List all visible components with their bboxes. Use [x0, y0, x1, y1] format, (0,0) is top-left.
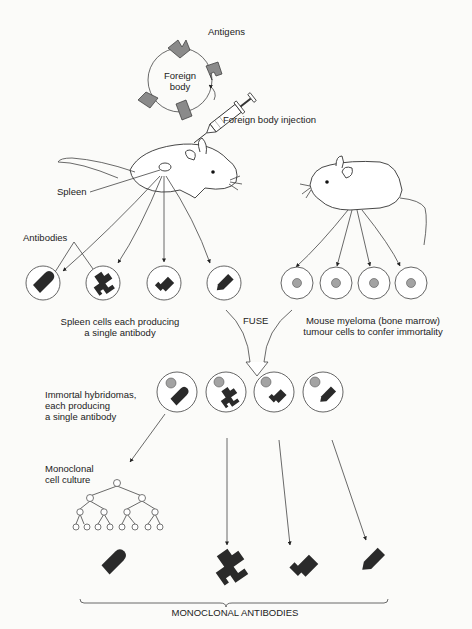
label-spleen-cells-line1: Spleen cells each producing [40, 316, 200, 327]
label-myeloma: Mouse myeloma (bone marrow) tumour cells… [283, 315, 463, 337]
hybridoma-cell [157, 372, 197, 412]
antigen-icon [176, 100, 192, 120]
spleen-icon [159, 163, 171, 171]
monoclonal-antibodies [102, 544, 386, 589]
culture-tree [73, 480, 163, 531]
antigen-icon [138, 92, 158, 108]
label-spleen: Spleen [57, 186, 87, 197]
label-myeloma-line2: tumour cells to confer immortality [283, 326, 463, 337]
label-spleen-cells: Spleen cells each producing a single ant… [40, 316, 200, 338]
mouse-right-icon [300, 156, 426, 245]
label-hybridomas-line2: each producing [45, 400, 136, 411]
myeloma-cell [281, 267, 313, 299]
label-spleen-cells-line2: a single antibody [40, 327, 200, 338]
label-culture: Monoclonal cell culture [45, 463, 94, 485]
label-foreign-body: Foreign body [160, 70, 200, 92]
label-hybridomas-line3: a single antibody [45, 411, 136, 422]
spleen-cell [26, 266, 60, 300]
antibody-arrow-icon [359, 548, 385, 574]
label-culture-line1: Monoclonal [45, 463, 94, 474]
spleen-cell [207, 266, 241, 300]
hybridoma-cell [206, 372, 246, 412]
label-myeloma-line1: Mouse myeloma (bone marrow) [283, 315, 463, 326]
spleen-cell [147, 266, 181, 300]
hybridoma-diagram: Antigens Foreign body Foreign body injec… [0, 0, 472, 629]
spleen-cell [86, 266, 120, 300]
hybridoma-cell [254, 372, 294, 412]
hybridoma-cell [303, 372, 343, 412]
label-antigens: Antigens [208, 26, 245, 37]
antigen-icon [168, 40, 190, 58]
brace [80, 599, 388, 607]
label-hybridomas-line1: Immortal hybridomas, [45, 389, 136, 400]
label-foreign-body-injection: Foreign body injection [223, 114, 316, 125]
hybridoma-arrows [130, 414, 366, 545]
myeloma-arrows [296, 210, 400, 267]
antibody-plug-icon [289, 551, 318, 580]
label-fuse: FUSE [243, 315, 268, 326]
myeloma-cell [320, 267, 352, 299]
arrow-icon [209, 85, 215, 100]
antibody-bullet-icon [102, 549, 126, 574]
label-monoclonal-antibodies: MONOCLONAL ANTIBODIES [140, 607, 330, 618]
antibody-hook-icon [208, 544, 252, 589]
label-hybridomas: Immortal hybridomas, each producing a si… [45, 389, 136, 422]
myeloma-cell [358, 267, 390, 299]
label-culture-line2: cell culture [45, 474, 94, 485]
spleen-cells [26, 266, 241, 300]
label-foreign-body-line2: body [160, 81, 200, 92]
label-antibodies: Antibodies [23, 232, 67, 243]
label-foreign-body-line1: Foreign [160, 70, 200, 81]
myeloma-cell [395, 267, 427, 299]
hybridoma-cells [157, 372, 343, 412]
myeloma-cells [281, 267, 427, 299]
